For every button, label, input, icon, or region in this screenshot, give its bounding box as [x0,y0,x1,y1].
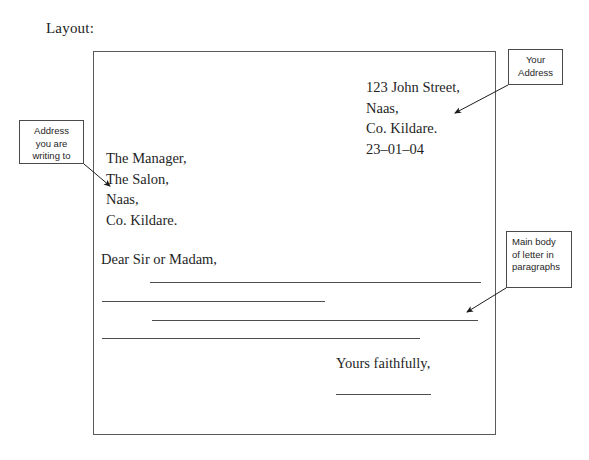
callout-line: you are [25,138,78,151]
sender-address-line: Co. Kildare. [366,118,460,139]
callout-line: writing to [25,150,78,163]
letter-layout-diagram: Layout: 123 John Street, Naas, Co. Kilda… [0,0,589,460]
callout-line: Main body [512,236,566,249]
callout-main-body: Main body of letter in paragraphs [506,231,572,288]
body-rule [152,320,478,321]
sender-address-date: 23–01–04 [366,139,460,160]
body-rule [102,301,325,302]
sender-address-line: Naas, [366,98,460,119]
recipient-address-line: Naas, [106,189,187,210]
recipient-address-line: Co. Kildare. [106,210,187,231]
callout-line: Address [25,125,78,138]
recipient-address-line: The Manager, [106,148,187,169]
recipient-address-block: The Manager, The Salon, Naas, Co. Kildar… [106,148,187,230]
recipient-address-line: The Salon, [106,169,187,190]
sender-address-block: 123 John Street, Naas, Co. Kildare. 23–0… [366,77,460,159]
closing-text: Yours faithfully, [336,353,430,373]
signature-rule [336,394,431,395]
callout-your-address: Your Address [508,49,563,85]
body-rule [102,338,420,339]
salutation-text: Dear Sir or Madam, [101,249,217,269]
callout-line: paragraphs [512,261,566,274]
callout-line: Address [514,67,557,80]
sender-address-line: 123 John Street, [366,77,460,98]
page-title: Layout: [46,20,94,37]
callout-line: Your [514,54,557,67]
callout-address-you-are-writing-to: Address you are writing to [19,120,84,164]
body-rule [150,282,481,283]
callout-line: of letter in [512,249,566,262]
